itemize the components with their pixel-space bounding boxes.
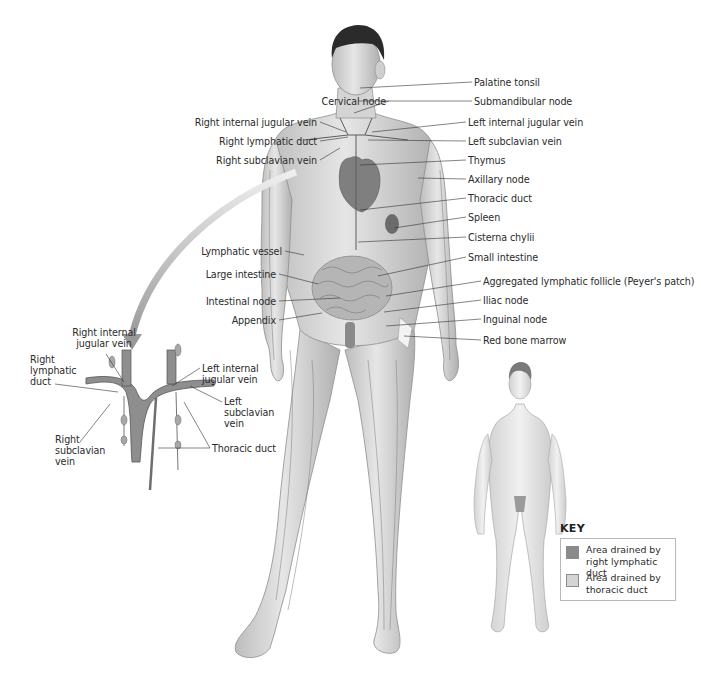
label-right-internal-jugular-vein: Right internal jugular vein [195, 117, 317, 128]
label-right-subclavian-vein: Right subclavian vein [216, 155, 317, 166]
key-title: KEY [560, 522, 585, 535]
label-inguinal-node: Inguinal node [483, 314, 547, 325]
label-peyers-patch: Aggregated lymphatic follicle (Peyer's p… [483, 276, 694, 287]
label-intestinal-node: Intestinal node [206, 296, 276, 307]
swatch-light-gray [566, 574, 579, 587]
inset-label-right-lymphatic-duct: Right lymphatic duct [30, 354, 72, 387]
label-appendix: Appendix [232, 315, 276, 326]
key-text: Area drained by thoracic duct [586, 572, 674, 595]
reference-body [474, 362, 566, 632]
swatch-dark-gray [566, 546, 579, 559]
label-red-bone-marrow: Red bone marrow [483, 335, 566, 346]
label-axillary-node: Axillary node [468, 174, 529, 185]
label-spleen: Spleen [468, 212, 500, 223]
label-large-intestine: Large intestine [206, 269, 276, 280]
label-left-subclavian-vein: Left subclavian vein [468, 136, 562, 147]
label-iliac-node: Iliac node [483, 295, 528, 306]
inset-label-thoracic-duct: Thoracic duct [212, 443, 276, 454]
label-thymus: Thymus [468, 155, 505, 166]
label-cisterna-chylii: Cisterna chylii [468, 232, 534, 243]
inset-label-right-internal-jugular-vein: Right internal jugular vein [68, 327, 140, 349]
label-palatine-tonsil: Palatine tonsil [474, 77, 540, 88]
label-left-internal-jugular-vein: Left internal jugular vein [468, 117, 583, 128]
inset-veins [86, 344, 214, 490]
label-thoracic-duct: Thoracic duct [468, 193, 532, 204]
label-small-intestine: Small intestine [468, 252, 538, 263]
key-legend: Area drained by right lymphatic duct Are… [560, 538, 676, 601]
label-cervical-node: Cervical node [322, 96, 386, 107]
label-right-lymphatic-duct: Right lymphatic duct [219, 136, 317, 147]
label-submandibular-node: Submandibular node [474, 96, 572, 107]
inset-label-left-internal-jugular-vein: Left internal jugular vein [202, 363, 264, 385]
inset-label-right-subclavian-vein: Right subclavian vein [55, 434, 103, 467]
label-lymphatic-vessel: Lymphatic vessel [201, 246, 282, 257]
inset-label-left-subclavian-vein: Left subclavian vein [224, 396, 270, 429]
lymphatic-system-figure: Palatine tonsil Submandibular node Left … [0, 0, 701, 675]
key-item-thoracic-duct: Area drained by thoracic duct [566, 572, 674, 595]
